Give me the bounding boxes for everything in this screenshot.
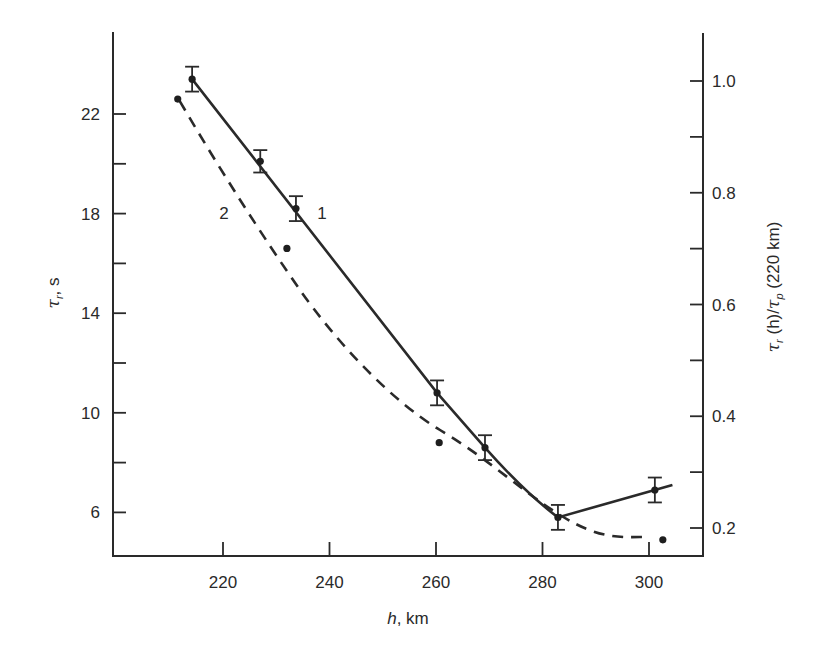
x-axis-label: h, km	[387, 609, 429, 628]
series-2-label: 2	[219, 204, 228, 223]
y-ticks	[113, 114, 126, 512]
y-tick-labels: 610141822	[81, 105, 100, 522]
y-right-ticks	[690, 81, 703, 528]
data-point	[651, 486, 658, 493]
data-point	[436, 439, 443, 446]
data-point	[257, 158, 264, 165]
data-point	[659, 536, 666, 543]
data-point	[174, 95, 181, 102]
x-tick-label: 220	[209, 573, 237, 592]
y-right-tick-label: 0.6	[712, 296, 736, 315]
data-point	[481, 444, 488, 451]
y-tick-label: 18	[81, 205, 100, 224]
data-point	[433, 389, 440, 396]
series-2-points	[174, 95, 666, 543]
y-tick-label: 10	[81, 404, 100, 423]
x-tick-label: 260	[422, 573, 450, 592]
y-right-tick-labels: 0.20.40.60.81.0	[712, 72, 736, 538]
y-tick-label: 6	[91, 503, 100, 522]
data-point	[283, 245, 290, 252]
chart: 220240260280300 610141822 0.20.40.60.81.…	[0, 0, 813, 663]
y-right-tick-label: 0.4	[712, 407, 736, 426]
y-axis-label: τr, s	[43, 277, 65, 308]
x-tick-label: 300	[635, 573, 663, 592]
x-ticks	[223, 542, 649, 556]
y-tick-label: 22	[81, 105, 100, 124]
series-2-dashed-curve	[180, 101, 648, 537]
x-tick-label: 280	[528, 573, 556, 592]
data-point	[292, 205, 299, 212]
x-tick-labels: 220240260280300	[209, 573, 663, 592]
y-right-tick-label: 0.8	[712, 184, 736, 203]
y-right-axis-label: τr (h)/τp (220 km)	[763, 222, 785, 353]
series-1-points	[189, 76, 659, 521]
y-right-tick-label: 1.0	[712, 72, 736, 91]
series-1-error-bars	[185, 67, 662, 530]
x-tick-label: 240	[315, 573, 343, 592]
y-tick-label: 14	[81, 304, 100, 323]
series-1-label: 1	[317, 204, 326, 223]
y-right-tick-label: 0.2	[712, 519, 736, 538]
data-point	[189, 76, 196, 83]
series-1-solid-curve	[192, 79, 672, 517]
data-point	[554, 514, 561, 521]
axes	[112, 32, 704, 557]
